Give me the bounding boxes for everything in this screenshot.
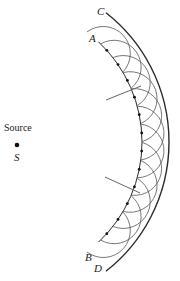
ray-line [106, 86, 141, 100]
point-d-label: D [94, 263, 102, 274]
wavelet-source-dot [133, 96, 136, 99]
wavelet-source-dot [140, 132, 143, 135]
wavelet-source-dot [138, 113, 141, 116]
wavelet-arc [101, 40, 141, 88]
point-a-label: A [89, 33, 96, 44]
wavelet-source-dot [140, 150, 143, 153]
wavelet-source-dot [126, 79, 129, 82]
wavelet-arc [113, 178, 150, 228]
secondary-wavelets [87, 26, 164, 257]
point-c-label: C [97, 6, 104, 17]
wavelet-source-dot [138, 168, 141, 171]
wavelet-source-points [105, 49, 143, 235]
wavelet-source-dot [126, 202, 129, 205]
wavelet-source-dot [117, 218, 120, 221]
wavelet-source-dot [105, 232, 108, 235]
wavelet-source-dot [105, 49, 108, 52]
wavelet-arc [113, 56, 150, 106]
wavelet-arc [87, 212, 130, 257]
source-point [15, 143, 20, 148]
point-b-label: B [85, 252, 92, 263]
source-label: Source [4, 123, 32, 133]
wavelet-source-dot [133, 185, 136, 188]
wavefront-cd [106, 13, 169, 271]
source-symbol-label: S [14, 152, 20, 163]
wavelet-source-dot [117, 63, 120, 66]
wavelet-arc [101, 196, 141, 244]
